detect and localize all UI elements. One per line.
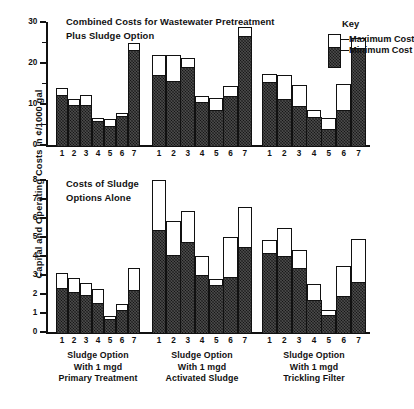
- x-tick-label: 7: [238, 336, 252, 345]
- y-tick: [40, 179, 46, 180]
- y-tick-label: 3: [21, 270, 37, 279]
- bar: [92, 289, 104, 334]
- bar: [277, 228, 292, 334]
- y-tick-label: 7: [21, 194, 37, 203]
- y-tick-minor: [42, 42, 47, 43]
- y-tick-minor: [42, 83, 47, 84]
- x-tick-label: 1: [262, 149, 276, 158]
- bar-min-fill: [92, 121, 104, 147]
- group-caption-line-2: With 1 mgd: [246, 362, 382, 374]
- bar-min-fill: [80, 105, 92, 148]
- x-tick-label: 7: [352, 149, 366, 158]
- bar-group: [262, 176, 366, 334]
- x-tick-label: 3: [181, 336, 195, 345]
- group-caption-line-3: Trickling Filter: [246, 373, 382, 385]
- chart-panel-sludge-only: Costs of Sludge Options Alone 0123456781…: [46, 176, 396, 344]
- y-tick: [40, 312, 46, 313]
- bar: [116, 113, 128, 147]
- y-tick: [40, 293, 46, 294]
- bar-min-fill: [152, 75, 167, 147]
- bar: [166, 221, 180, 334]
- bar: [307, 284, 322, 334]
- x-tick-label: 4: [195, 149, 209, 158]
- bar-min-fill: [92, 303, 104, 334]
- y-tick-label: 8: [21, 175, 37, 184]
- legend-leader-max: [341, 39, 349, 40]
- y-tick-minor: [42, 124, 47, 125]
- bar-min-fill: [128, 290, 140, 335]
- bar: [56, 273, 68, 334]
- bar-min-fill: [68, 105, 80, 147]
- bar: [336, 266, 351, 334]
- bar-min-fill: [336, 110, 351, 147]
- y-tick-label: 10: [21, 99, 37, 108]
- bar: [68, 278, 80, 334]
- bar: [292, 85, 307, 147]
- bar-min-fill: [238, 247, 253, 334]
- y-tick-label: 6: [21, 213, 37, 222]
- x-tick-label: 6: [224, 336, 238, 345]
- y-tick-label: 1: [21, 308, 37, 317]
- bar: [321, 118, 336, 147]
- bar-group: [152, 176, 252, 334]
- x-tick-label: 7: [352, 336, 366, 345]
- legend-swatch-min-fill: [328, 47, 342, 68]
- x-tick-label: 4: [195, 336, 209, 345]
- bar: [181, 58, 195, 147]
- bar-min-fill: [116, 310, 128, 334]
- bar-min-fill: [152, 230, 167, 335]
- bar: [128, 43, 140, 147]
- x-tick-label: 5: [322, 336, 336, 345]
- bar-min-fill: [56, 288, 68, 335]
- bar-min-fill: [180, 67, 195, 147]
- x-tick-label: 1: [262, 336, 276, 345]
- x-tick-label: 4: [307, 336, 321, 345]
- bar: [223, 237, 237, 334]
- y-tick: [40, 217, 46, 218]
- bar: [80, 95, 92, 147]
- bar: [104, 119, 116, 147]
- y-tick-label: 5: [21, 232, 37, 241]
- bar-min-fill: [292, 268, 307, 335]
- bar-min-fill: [292, 106, 307, 147]
- bar: [262, 240, 277, 334]
- bar: [80, 283, 92, 334]
- x-tick-label: 2: [277, 336, 291, 345]
- bar-min-fill: [209, 110, 224, 147]
- x-tick-label: 3: [292, 336, 306, 345]
- bar-min-fill: [277, 99, 292, 147]
- group-caption-line-1: Sludge Option: [246, 350, 382, 362]
- bar-min-fill: [80, 295, 92, 334]
- bar-min-fill: [68, 292, 80, 334]
- bar-min-fill: [306, 300, 321, 334]
- bar-min-fill: [351, 282, 366, 334]
- x-tick-label: 4: [307, 149, 321, 158]
- legend-label-maximum: Maximum Cost: [349, 34, 414, 44]
- bar-min-fill: [223, 96, 238, 147]
- x-tick-label: 5: [209, 149, 223, 158]
- bar-min-fill: [223, 277, 238, 334]
- bar: [321, 310, 336, 334]
- bar-group: [56, 176, 140, 334]
- x-tick-label: 5: [209, 336, 223, 345]
- bar: [262, 74, 277, 147]
- bar: [128, 268, 140, 335]
- bar-min-fill: [166, 81, 181, 147]
- bar-min-fill: [277, 256, 292, 334]
- bar-min-fill: [56, 95, 68, 147]
- bar: [68, 99, 80, 147]
- y-axis-line: [46, 180, 48, 334]
- bar-min-fill: [104, 126, 116, 147]
- bar-min-fill: [180, 242, 195, 334]
- legend-leader-min: [341, 50, 349, 51]
- x-tick-label: 6: [337, 149, 351, 158]
- bar-min-fill: [166, 255, 181, 334]
- x-tick-label: 6: [337, 336, 351, 345]
- x-tick-label: 2: [277, 149, 291, 158]
- x-tick-label: 7: [127, 149, 141, 158]
- x-tick-label: 2: [166, 149, 180, 158]
- x-tick-label: 2: [166, 336, 180, 345]
- bar: [238, 207, 252, 334]
- bar: [209, 98, 223, 147]
- bar: [166, 55, 180, 147]
